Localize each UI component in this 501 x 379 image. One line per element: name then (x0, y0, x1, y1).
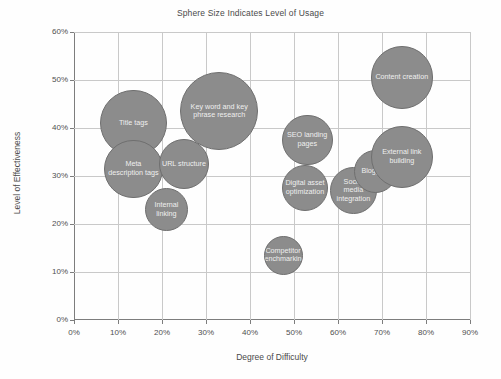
x-axis-title: Degree of Difficulty (74, 352, 470, 362)
x-axis-tick-label: 80% (406, 328, 446, 337)
bubble-point[interactable]: Content creation (371, 46, 433, 108)
x-axis-tick-label: 20% (142, 328, 182, 337)
bubble-label: Content creation (375, 73, 428, 82)
x-axis-tick-label: 70% (362, 328, 402, 337)
y-axis-tick-label: 10% (36, 267, 68, 276)
y-gridline (74, 224, 470, 225)
bubble-point[interactable]: Competitor benchmarking (264, 236, 303, 275)
bubble-label: Competitor benchmarking (264, 247, 303, 264)
y-axis-tick (70, 272, 74, 273)
y-axis-tick (70, 32, 74, 33)
y-axis-tick-label: 30% (36, 171, 68, 180)
x-axis-tick (426, 320, 427, 324)
y-axis-tick (70, 128, 74, 129)
x-axis-tick-label: 0% (54, 328, 94, 337)
bubble-point[interactable]: Meta description tags (104, 140, 163, 199)
bubble-label: External link building (374, 148, 430, 165)
bubble-label: Digital asset optimization (285, 179, 326, 196)
y-axis-tick-label: 40% (36, 123, 68, 132)
y-axis-tick-label: 60% (36, 27, 68, 36)
bubble-point[interactable]: Key word and key phrase research (180, 72, 258, 150)
y-gridline (74, 272, 470, 273)
bubble-label: Internal linking (148, 201, 185, 218)
x-axis-tick (206, 320, 207, 324)
bubble-label: Meta description tags (107, 160, 160, 177)
x-axis-tick (162, 320, 163, 324)
x-axis-tick (338, 320, 339, 324)
x-axis-tick (382, 320, 383, 324)
x-gridline (470, 32, 471, 320)
y-gridline (74, 32, 470, 33)
x-axis-tick-label: 90% (450, 328, 490, 337)
plot-area: 0%10%20%30%40%50%60%70%80%90%0%10%20%30%… (74, 32, 470, 320)
y-axis-tick (70, 224, 74, 225)
y-axis-tick-label: 20% (36, 219, 68, 228)
x-axis-tick-label: 50% (274, 328, 314, 337)
x-axis-tick-label: 10% (98, 328, 138, 337)
bubble-point[interactable]: External link building (371, 126, 433, 188)
y-axis-tick (70, 320, 74, 321)
y-axis-tick-label: 0% (36, 315, 68, 324)
y-axis-tick (70, 176, 74, 177)
bubble-label: URL structure (162, 160, 206, 169)
bubble-label: SEO landing pages (285, 131, 330, 148)
bubble-chart: Sphere Size Indicates Level of Usage Lev… (0, 0, 501, 379)
x-axis-tick-label: 40% (230, 328, 270, 337)
y-axis-tick (70, 80, 74, 81)
x-axis-tick (470, 320, 471, 324)
x-axis-tick (118, 320, 119, 324)
y-axis-tick-label: 50% (36, 75, 68, 84)
bubble-label: Title tags (119, 119, 148, 128)
x-axis-tick-label: 60% (318, 328, 358, 337)
x-axis-tick (74, 320, 75, 324)
bubble-point[interactable]: SEO landing pages (282, 115, 333, 166)
x-axis-tick-label: 30% (186, 328, 226, 337)
x-axis-tick (294, 320, 295, 324)
chart-title: Sphere Size Indicates Level of Usage (0, 8, 501, 18)
y-axis-title: Level of Effectiveness (12, 113, 22, 233)
x-axis-tick (250, 320, 251, 324)
bubble-label: Key word and key phrase research (183, 103, 255, 120)
bubble-point[interactable]: Internal linking (145, 188, 188, 231)
